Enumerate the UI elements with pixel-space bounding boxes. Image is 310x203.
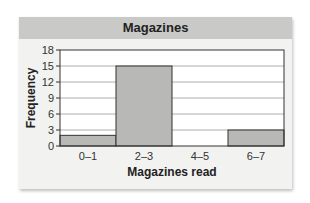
y-axis-label: Frequency <box>24 67 38 128</box>
y-tick-label: 12 <box>42 76 54 88</box>
y-tick-label: 9 <box>48 92 54 104</box>
bar-0-1 <box>60 135 116 146</box>
bar-2-3 <box>116 66 172 146</box>
bar-6-7 <box>228 130 284 146</box>
x-tick-label: 4–5 <box>191 150 209 162</box>
histogram-chart: 0369121518 0–12–34–56–7 Frequency Magazi… <box>0 0 310 203</box>
y-tick-label: 3 <box>48 124 54 136</box>
y-tick-label: 18 <box>42 44 54 56</box>
x-tick-label: 6–7 <box>247 150 265 162</box>
y-tick-label: 15 <box>42 60 54 72</box>
x-axis-label: Magazines read <box>127 165 216 179</box>
x-tick-label: 0–1 <box>79 150 97 162</box>
y-tick-label: 6 <box>48 108 54 120</box>
x-tick-label: 2–3 <box>135 150 153 162</box>
y-tick-label: 0 <box>48 140 54 152</box>
